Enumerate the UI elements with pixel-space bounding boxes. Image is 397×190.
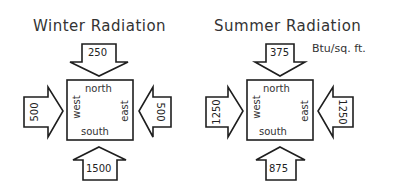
summer-east-label: east [300,96,310,126]
winter-south-value: 1500 [86,164,111,174]
winter-east-label: east [120,96,130,126]
summer-north-label: north [263,84,290,94]
summer-west-value: 1250 [212,99,222,125]
summer-west-label: west [252,92,262,122]
summer-south-value: 875 [269,164,288,174]
winter-north-label: north [85,84,112,94]
summer-north-value: 375 [270,48,289,58]
winter-west-label: west [72,92,82,122]
winter-title: Winter Radiation [33,17,166,35]
winter-north-value: 250 [88,48,107,58]
summer-east-value: 1250 [337,99,347,125]
units-label: Btu/sq. ft. [312,42,366,55]
winter-south-label: south [81,127,109,137]
winter-east-value: 500 [155,100,165,124]
summer-south-label: south [259,127,287,137]
summer-title: Summer Radiation [214,17,361,35]
winter-west-value: 500 [30,100,40,124]
